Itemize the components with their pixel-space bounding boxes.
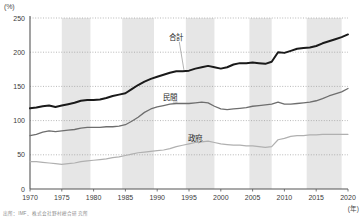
y-tick-label: 200 — [13, 49, 25, 56]
x-tick-label: 1995 — [181, 194, 197, 201]
x-tick-label: 2010 — [277, 194, 293, 201]
y-tick-label: 100 — [13, 117, 25, 124]
x-tick-label: 1990 — [149, 194, 165, 201]
series-label: 合計 — [169, 32, 184, 42]
x-tick-label: 1985 — [118, 194, 134, 201]
x-tick-label: 2020 — [340, 194, 356, 201]
x-tick-label: 1980 — [86, 194, 102, 201]
leader-line — [179, 42, 184, 70]
y-tick-label: 0 — [21, 186, 25, 193]
x-tick-label: 1970 — [22, 194, 38, 201]
x-axis-unit-label: (年) — [348, 203, 359, 213]
x-tick-label: 2000 — [213, 194, 229, 201]
x-tick-label: 2005 — [245, 194, 261, 201]
y-tick-label: 250 — [13, 15, 25, 22]
shaded-band — [249, 18, 271, 189]
y-tick-label: 50 — [17, 151, 25, 158]
x-tick-labels: 1970197519801985199019952000200520102015… — [22, 194, 356, 201]
y-tick-label: 150 — [13, 83, 25, 90]
shaded-band — [122, 18, 154, 189]
series-label: 民間 — [163, 93, 177, 102]
y-tick-labels: 050100150200250 — [13, 15, 25, 193]
source-note: 出所：IMF、株式会社野村総合研究所 — [3, 210, 88, 216]
debt-to-gdp-line-chart: 050100150200250 197019751980198519901995… — [0, 0, 362, 221]
x-tick-label: 2015 — [308, 194, 324, 201]
x-tick-label: 1975 — [54, 194, 70, 201]
chart-figure: (%) 050100150200250 19701975198019851990… — [0, 0, 362, 221]
